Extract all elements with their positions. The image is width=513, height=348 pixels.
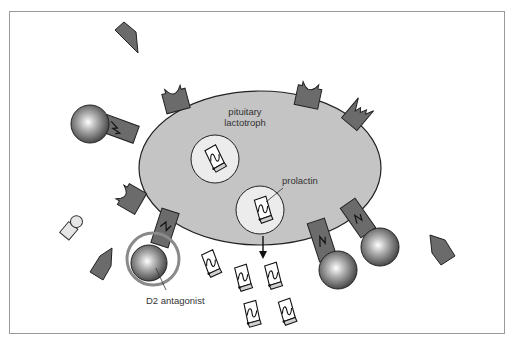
receptor-empty-top-right — [294, 81, 322, 109]
released-prolactin-4 — [244, 300, 262, 327]
free-ligand-bottom-left — [90, 248, 112, 280]
agonist-ball — [361, 228, 399, 266]
small-agonist-molecule — [60, 213, 85, 240]
free-ligand-right — [430, 235, 455, 265]
released-prolactin-2 — [234, 264, 252, 292]
released-prolactin-5 — [278, 298, 297, 326]
antagonist-ball — [131, 245, 167, 281]
agonist-ball — [319, 251, 357, 289]
lactotroph-diagram: pituitary lactotroph prolactin D2 antago… — [0, 0, 513, 348]
released-prolactin-1 — [201, 249, 222, 278]
cell-label-line1: pituitary — [228, 106, 262, 117]
receptor-bound-left — [71, 105, 139, 143]
released-prolactin-3 — [264, 262, 282, 290]
prolactin-label: prolactin — [282, 175, 318, 186]
receptor-bound-antagonist — [127, 208, 179, 285]
receptor-empty-left — [114, 182, 147, 215]
cell-label-line2: lactotroph — [224, 117, 266, 128]
free-ligand-top — [115, 22, 138, 53]
antagonist-label: D2 antagonist — [146, 295, 205, 306]
agonist-ball — [71, 105, 109, 143]
